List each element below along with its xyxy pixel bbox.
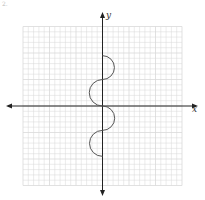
axes	[6, 12, 198, 196]
y-axis-label: y	[106, 10, 111, 20]
coordinate-plane	[0, 0, 205, 200]
x-axis-label: x	[192, 104, 197, 114]
